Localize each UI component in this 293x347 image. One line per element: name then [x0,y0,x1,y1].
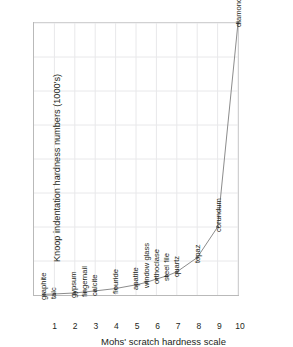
y-axis-title: Knoop indentation hardness numbers (1000… [52,68,62,268]
point-label-apatite: apatite [132,267,140,290]
point-label-topaz: topaz [194,244,202,263]
point-label-quartz: quartz [173,256,181,277]
x-axis-title: Mohs' scratch hardness scale [34,336,293,347]
x-tick-label: 5 [127,322,147,331]
x-tick-label: 10 [230,322,250,331]
point-label-talc: talc [50,288,58,300]
x-tick-label: 4 [106,322,126,331]
point-label-diamond: diamond [235,0,243,27]
x-tick-label: 7 [168,322,188,331]
plot-area: 12345678910 12345678 graphitetalcgypsumf… [33,22,239,296]
point-label-orthoclase: orthoclase [153,249,161,284]
x-tick-label: 2 [65,322,85,331]
x-tick-label: 6 [148,322,168,331]
point-label-gypsum: gypsum [70,272,78,299]
x-tick-label: 9 [209,322,229,331]
point-label-fingernail: fingernail [81,267,89,298]
point-label-steel-file: steel file [163,253,171,281]
data-series [34,23,238,295]
x-tick-label: 8 [189,322,209,331]
x-tick-label: 3 [86,322,106,331]
point-label-graphite: graphite [40,272,48,299]
x-tick-label: 1 [45,322,65,331]
point-label-calcite: calcite [91,275,99,297]
point-label-flouride: flouride [112,269,120,294]
point-label-window-glass: window glass [143,243,151,288]
point-label-corundum: corundum [215,198,223,232]
